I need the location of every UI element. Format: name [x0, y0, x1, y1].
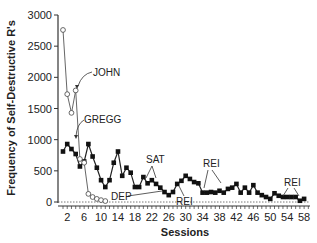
- data-point-square: [124, 165, 129, 170]
- data-point-square: [95, 165, 100, 170]
- data-point-square: [298, 198, 303, 203]
- data-point-circle: [73, 88, 78, 93]
- svg-text:SAT: SAT: [146, 154, 165, 165]
- y-tick-label: 2000: [28, 71, 52, 83]
- x-tick-label: 54: [281, 211, 293, 223]
- series-gregg: [61, 142, 307, 203]
- data-point-square: [141, 175, 146, 180]
- data-point-square: [293, 195, 298, 200]
- data-point-square: [221, 190, 226, 195]
- data-point-square: [179, 179, 184, 184]
- data-point-square: [69, 147, 74, 152]
- data-point-square: [213, 190, 218, 195]
- data-point-square: [200, 190, 205, 195]
- x-tick-label: 22: [146, 211, 158, 223]
- data-point-square: [103, 185, 108, 190]
- x-tick-label: 2: [64, 211, 70, 223]
- x-tick-label: 38: [213, 211, 225, 223]
- y-axis: 050010001500200025003000: [28, 9, 58, 208]
- x-tick-label: 18: [129, 211, 141, 223]
- data-point-square: [166, 193, 171, 198]
- data-point-square: [209, 190, 214, 195]
- data-point-square: [188, 177, 193, 182]
- annotation-rei: REI: [283, 177, 301, 196]
- y-tick-label: 0: [46, 196, 52, 208]
- x-tick-label: 14: [112, 211, 124, 223]
- data-point-square: [137, 185, 142, 190]
- data-point-square: [289, 195, 294, 200]
- svg-text:GREGG: GREGG: [84, 114, 121, 125]
- annotation-sat: SAT: [146, 154, 165, 178]
- x-tick-label: 42: [230, 211, 242, 223]
- svg-text:DEP: DEP: [111, 191, 132, 202]
- data-point-square: [276, 193, 281, 198]
- y-tick-label: 1500: [28, 103, 52, 115]
- data-point-square: [226, 187, 231, 192]
- data-point-square: [302, 197, 307, 202]
- data-point-circle: [78, 157, 83, 162]
- data-point-square: [150, 178, 155, 183]
- annotation-john: JOHN: [75, 67, 120, 89]
- data-point-square: [243, 185, 248, 190]
- data-point-circle: [69, 110, 74, 115]
- y-tick-label: 2500: [28, 40, 52, 52]
- data-point-square: [73, 152, 78, 157]
- data-point-square: [238, 190, 243, 195]
- annotations: JOHNGREGGSATDEPREIREIREI: [74, 67, 301, 207]
- x-tick-label: 58: [298, 211, 310, 223]
- data-point-square: [107, 178, 112, 183]
- data-point-square: [99, 178, 104, 183]
- data-point-circle: [61, 28, 66, 33]
- data-point-square: [128, 170, 133, 175]
- annotation-dep: DEP: [111, 191, 162, 202]
- data-point-square: [205, 190, 210, 195]
- data-point-square: [247, 190, 252, 195]
- data-point-square: [158, 185, 163, 190]
- y-tick-label: 3000: [28, 9, 52, 21]
- data-point-square: [272, 191, 277, 196]
- svg-text:JOHN: JOHN: [93, 67, 120, 78]
- data-point-square: [230, 185, 235, 190]
- svg-text:REI: REI: [176, 196, 193, 207]
- x-tick-label: 26: [163, 211, 175, 223]
- data-point-square: [196, 181, 201, 186]
- x-tick-label: 50: [264, 211, 276, 223]
- svg-text:REI: REI: [284, 177, 301, 188]
- annotation-rei: REI: [176, 186, 193, 207]
- data-point-square: [268, 197, 273, 202]
- data-point-circle: [103, 199, 108, 204]
- data-point-square: [61, 149, 66, 154]
- x-tick-label: 10: [95, 211, 107, 223]
- x-tick-label: 6: [81, 211, 87, 223]
- data-point-circle: [65, 92, 70, 97]
- data-point-square: [111, 160, 116, 165]
- data-point-square: [65, 142, 70, 147]
- data-point-square: [78, 164, 83, 169]
- data-point-square: [120, 174, 125, 179]
- data-point-square: [171, 190, 176, 195]
- data-point-circle: [86, 191, 91, 196]
- line-chart: 050010001500200025003000 261014182226303…: [0, 0, 317, 243]
- data-point-square: [234, 182, 239, 187]
- data-point-square: [86, 142, 91, 147]
- data-point-square: [264, 195, 269, 200]
- data-point-square: [192, 180, 197, 185]
- data-point-square: [175, 182, 180, 187]
- data-point-square: [260, 193, 265, 198]
- data-point-square: [285, 195, 290, 200]
- y-axis-title: Frequency of Self-Destructive R's: [5, 20, 17, 196]
- x-axis: 2610141822263034384246505458: [58, 206, 310, 223]
- x-tick-label: 46: [247, 211, 259, 223]
- x-tick-label: 34: [196, 211, 208, 223]
- data-point-square: [116, 149, 121, 154]
- annotation-gregg: GREGG: [74, 114, 121, 139]
- data-point-square: [183, 174, 188, 179]
- data-point-square: [217, 188, 222, 193]
- data-point-square: [255, 190, 260, 195]
- data-point-square: [90, 154, 95, 159]
- data-point-square: [133, 185, 138, 190]
- data-point-square: [154, 182, 159, 187]
- svg-text:REI: REI: [203, 158, 220, 169]
- x-tick-label: 30: [180, 211, 192, 223]
- annotation-rei: REI: [203, 158, 221, 188]
